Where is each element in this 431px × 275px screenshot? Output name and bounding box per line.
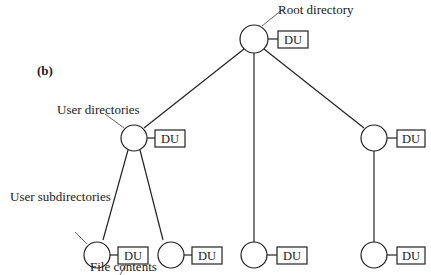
edge-root-user1 [144, 49, 244, 128]
du-label-user3: DU [402, 132, 420, 146]
node-sub3a [361, 242, 387, 268]
du-label-user2: DU [283, 249, 301, 263]
label-user-directories: User directories [57, 102, 140, 117]
node-user3 [361, 125, 387, 151]
du-label-user1: DU [161, 132, 179, 146]
edge-user1-sub1b [140, 150, 163, 240]
directory-tree-diagram: DU DU DU DU DU DU DU Root directory (b) … [0, 0, 431, 275]
label-user-subdirectories: User subdirectories [10, 189, 111, 204]
label-root-directory: Root directory [278, 2, 354, 17]
node-user1 [121, 125, 147, 151]
du-label-sub3a: DU [402, 249, 420, 263]
panel-label: (b) [37, 63, 53, 78]
du-label-root: DU [284, 33, 302, 47]
label-file-contents: File contents [90, 259, 157, 274]
edge-root-user3 [264, 49, 364, 128]
node-sub1b [158, 242, 184, 268]
leader-user-subdirs [75, 232, 87, 244]
node-user2 [241, 242, 267, 268]
node-root [240, 25, 268, 53]
du-label-sub1b: DU [198, 249, 216, 263]
